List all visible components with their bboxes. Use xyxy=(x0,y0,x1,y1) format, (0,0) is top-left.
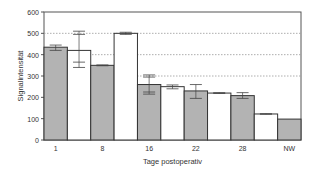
x-tick-label: NW xyxy=(283,145,295,152)
bar xyxy=(278,119,301,140)
y-tick-label: 300 xyxy=(27,73,39,80)
x-tick-label: 8 xyxy=(100,145,104,152)
bar xyxy=(254,114,277,140)
x-tick-label: 28 xyxy=(239,145,247,152)
x-axis-label: Tage postoperativ xyxy=(143,157,202,166)
y-tick-label: 200 xyxy=(27,94,39,101)
bar xyxy=(44,47,67,140)
y-axis-label: Signalintensität xyxy=(16,50,25,102)
bar xyxy=(231,96,254,140)
x-tick-label: 1 xyxy=(54,145,58,152)
y-tick-label: 500 xyxy=(27,30,39,37)
bar xyxy=(208,93,231,140)
x-tick-label: 16 xyxy=(145,145,153,152)
y-tick-label: 0 xyxy=(35,137,39,144)
bar-chart: 010020030040050060018162228NWTage postop… xyxy=(0,0,314,175)
chart-canvas: 010020030040050060018162228NWTage postop… xyxy=(0,0,314,175)
y-tick-label: 100 xyxy=(27,116,39,123)
y-tick-label: 400 xyxy=(27,52,39,59)
x-tick-label: 22 xyxy=(192,145,200,152)
bar xyxy=(161,87,184,140)
y-tick-label: 600 xyxy=(27,9,39,16)
bar xyxy=(91,65,114,140)
bar xyxy=(114,33,137,140)
